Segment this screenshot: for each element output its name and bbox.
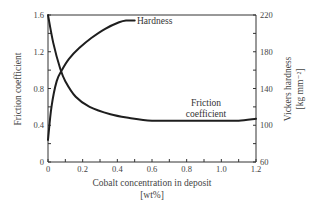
- y2-tick-label: 100: [260, 120, 273, 130]
- y2-tick-label: 140: [260, 84, 273, 94]
- tick-labels: 00.20.40.60.81.01.200.40.81.21.660100140…: [33, 10, 272, 174]
- friction-curve: [48, 15, 256, 121]
- friction-annotation-line1: Friction: [191, 98, 221, 108]
- x-axis-title-line1: Cobalt concentration in deposit: [93, 178, 212, 188]
- y2-tick-label: 220: [260, 10, 273, 20]
- y2-tick-label: 180: [260, 47, 273, 57]
- y2-axis-title-line1: Vickers hardness: [283, 56, 293, 121]
- y-tick-label: 0: [40, 157, 44, 167]
- x-axis-title-line2: [wt%]: [140, 190, 164, 200]
- x-tick-label: 1.0: [216, 164, 227, 174]
- x-tick-label: 0: [46, 164, 50, 174]
- hardness-annotation: Hardness: [137, 16, 173, 26]
- chart: 00.20.40.60.81.01.200.40.81.21.660100140…: [0, 0, 311, 210]
- y2-tick-label: 60: [260, 157, 269, 167]
- x-tick-label: 0.4: [112, 164, 123, 174]
- y-tick-label: 1.2: [33, 47, 44, 57]
- y-tick-label: 0.8: [33, 84, 44, 94]
- y-tick-label: 0.4: [33, 120, 44, 130]
- data-curves: [48, 15, 256, 140]
- tick-marks: [48, 15, 256, 162]
- x-tick-label: 0.2: [77, 164, 88, 174]
- y-tick-label: 1.6: [33, 10, 44, 20]
- x-tick-label: 0.8: [181, 164, 192, 174]
- plot-area: 00.20.40.60.81.01.200.40.81.21.660100140…: [33, 10, 272, 174]
- hardness-curve: [48, 20, 135, 140]
- y-axis-title: Friction coefficient: [13, 52, 23, 125]
- y2-axis-title-line2: [kg mm⁻²]: [295, 69, 305, 110]
- x-tick-label: 0.6: [147, 164, 158, 174]
- friction-annotation-line2: coefficient: [186, 109, 227, 119]
